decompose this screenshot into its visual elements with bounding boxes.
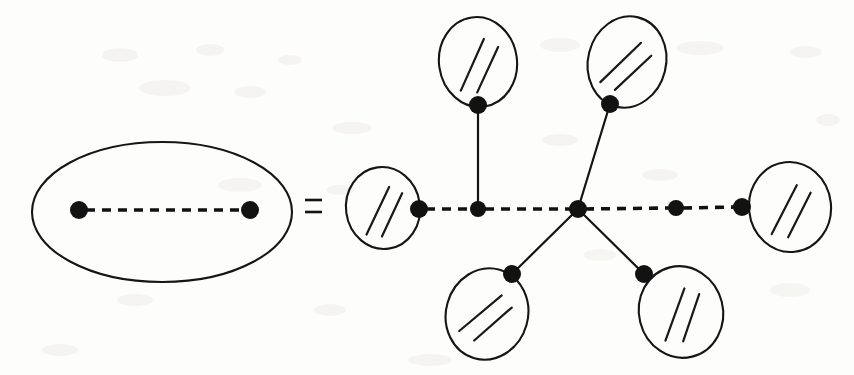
solid-edge-v5-v4 bbox=[578, 104, 610, 209]
blob-right-outline bbox=[745, 158, 836, 256]
blob-left-hatch-2 bbox=[376, 193, 407, 236]
blob-bottom-left-hatch-2 bbox=[474, 300, 512, 348]
blob-top-right bbox=[578, 8, 676, 116]
blob-right-hatch-1 bbox=[767, 185, 802, 234]
blob-top-right-outline bbox=[578, 8, 676, 116]
blob-bottom-right-hatch-2 bbox=[673, 294, 709, 341]
blob-bottom-left-outline bbox=[435, 258, 539, 369]
vertex-dot-v8 bbox=[668, 200, 684, 216]
right-vertices-group bbox=[410, 95, 751, 283]
vertex-dot-v3 bbox=[469, 96, 487, 114]
vertex-dot-v5 bbox=[569, 200, 587, 218]
blob-left-hatch-1 bbox=[360, 187, 395, 235]
vertex-dot-v2 bbox=[470, 201, 486, 217]
vertex-dot-v7 bbox=[635, 265, 653, 283]
vertex-dot-v9 bbox=[733, 198, 751, 216]
figure-canvas bbox=[0, 0, 854, 375]
blob-bottom-right-hatch-1 bbox=[654, 288, 695, 340]
blob-bottom-left-hatch-1 bbox=[459, 287, 501, 340]
solid-edges-group bbox=[478, 104, 644, 274]
blob-right bbox=[745, 158, 836, 256]
dashed-edge-v5-v8 bbox=[585, 208, 669, 209]
right-hand-side-group bbox=[341, 8, 836, 370]
left-hand-side-group bbox=[32, 142, 292, 282]
blob-top-right-hatch-1 bbox=[600, 36, 641, 90]
blob-bottom-left bbox=[435, 258, 539, 369]
blob-top-right-hatch-2 bbox=[615, 49, 651, 96]
vertex-dot-v4 bbox=[601, 95, 619, 113]
vertex-dot-v6 bbox=[503, 265, 521, 283]
equivalence-diagram bbox=[0, 0, 854, 375]
dashed-edge-v8-v9 bbox=[683, 207, 735, 208]
solid-edge-v5-v7 bbox=[578, 209, 644, 274]
solid-edge-v5-v6 bbox=[512, 209, 578, 274]
left-vertex-dot-2 bbox=[241, 201, 259, 219]
vertex-dot-v1 bbox=[410, 200, 428, 218]
paper-texture bbox=[42, 38, 840, 366]
blob-top-left-hatch-1 bbox=[454, 39, 490, 91]
equals-sign bbox=[305, 200, 322, 212]
left-vertex-dot-1 bbox=[70, 201, 88, 219]
